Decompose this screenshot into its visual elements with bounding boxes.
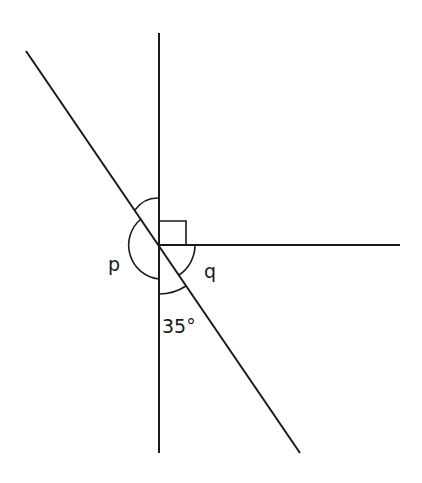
- right-angle-marker: [159, 221, 186, 245]
- angle-diagram: p q 35°: [0, 0, 422, 483]
- label-p: p: [108, 253, 120, 275]
- angle-35-arc: [159, 286, 186, 294]
- label-q: q: [204, 260, 216, 282]
- angle-p-arc: [129, 219, 159, 279]
- label-35-degrees: 35°: [162, 315, 196, 337]
- angle-q-arc: [179, 245, 195, 275]
- angle-p-arc-upper: [135, 198, 159, 210]
- diagonal-line: [26, 51, 300, 453]
